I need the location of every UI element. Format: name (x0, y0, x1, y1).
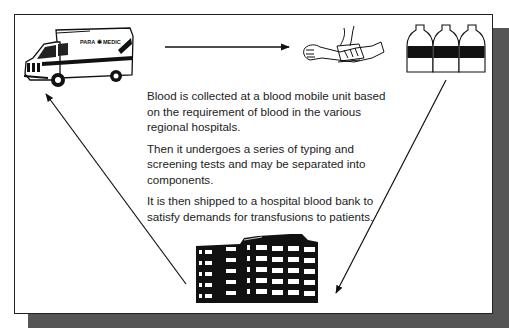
blood-bottle (433, 25, 459, 72)
paragraph-collection: Blood is collected at a blood mobile uni… (147, 88, 397, 135)
blood-bottle (407, 25, 433, 72)
blood-draw-icon (304, 26, 384, 62)
description-text: Blood is collected at a blood mobile uni… (147, 88, 397, 230)
paragraph-shipping: It is then shipped to a hospital blood b… (147, 193, 397, 224)
blood-bottles-icon (407, 25, 485, 72)
ambulance-label: PARA ✱ MEDIC (80, 39, 121, 45)
blood-bottle (459, 25, 485, 72)
paragraph-testing: Then it undergoes a series of typing and… (147, 141, 397, 188)
hospital-building-icon (196, 234, 318, 303)
ambulance-icon: PARA ✱ MEDIC (24, 28, 133, 87)
